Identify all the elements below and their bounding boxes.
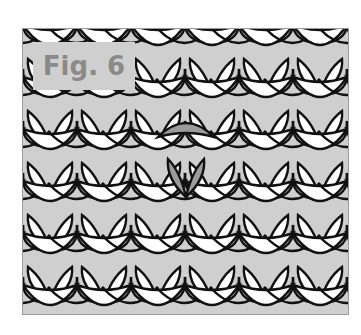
figure-label: Fig. 6 [33,42,135,90]
